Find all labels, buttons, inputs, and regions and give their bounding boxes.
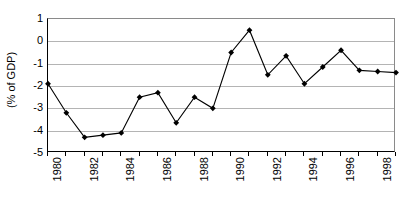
x-tick-label: 1986 [161,157,173,201]
x-tick-label: 1980 [51,157,63,201]
x-tick-label: 1988 [198,157,210,201]
x-tick [102,152,103,156]
x-tick [65,152,66,156]
x-tick [377,152,378,156]
y-tick-label: 1 [37,12,43,24]
x-tick [175,152,176,156]
data-point-marker [100,132,106,138]
x-tick [47,152,48,156]
line-chart: (% of GDP) 10-1-2-3-4-5 1980198219841986… [0,0,406,202]
y-tick-label: -5 [33,146,43,158]
x-tick [157,152,158,156]
data-point-marker [155,90,161,96]
y-axis-title: (% of GDP) [0,0,22,160]
x-tick-label: 1984 [124,157,136,201]
x-tick [395,152,396,156]
data-point-marker [393,70,399,76]
x-tick [340,152,341,156]
x-tick [230,152,231,156]
x-axis-tick-labels: 1980198219841986198819901992199419961998 [47,157,395,202]
x-tick [267,152,268,156]
x-tick-label: 1998 [381,157,393,201]
x-tick-label: 1996 [344,157,356,201]
x-tick-label: 1990 [234,157,246,201]
y-tick-label: -3 [33,101,43,113]
x-tick [322,152,323,156]
x-tick [194,152,195,156]
y-tick-label: -1 [33,57,43,69]
y-tick-label: -4 [33,124,43,136]
y-axis-title-label: (% of GDP) [5,52,17,108]
data-point-marker [118,130,124,136]
x-tick [212,152,213,156]
y-tick-label: -2 [33,79,43,91]
x-tick [358,152,359,156]
x-tick [120,152,121,156]
y-tick-label: 0 [37,34,43,46]
plot-area [47,18,395,152]
x-tick-label: 1994 [307,157,319,201]
x-tick-label: 1992 [271,157,283,201]
x-tick [84,152,85,156]
x-tick-label: 1982 [88,157,100,201]
data-point-marker [375,69,381,75]
data-point-marker [210,105,216,111]
x-tick [139,152,140,156]
x-tick [303,152,304,156]
data-series-line [48,19,396,153]
y-axis-tick-labels: 10-1-2-3-4-5 [22,18,46,152]
series-polyline [48,30,396,137]
x-tick [248,152,249,156]
x-tick [285,152,286,156]
data-point-marker [137,94,143,100]
